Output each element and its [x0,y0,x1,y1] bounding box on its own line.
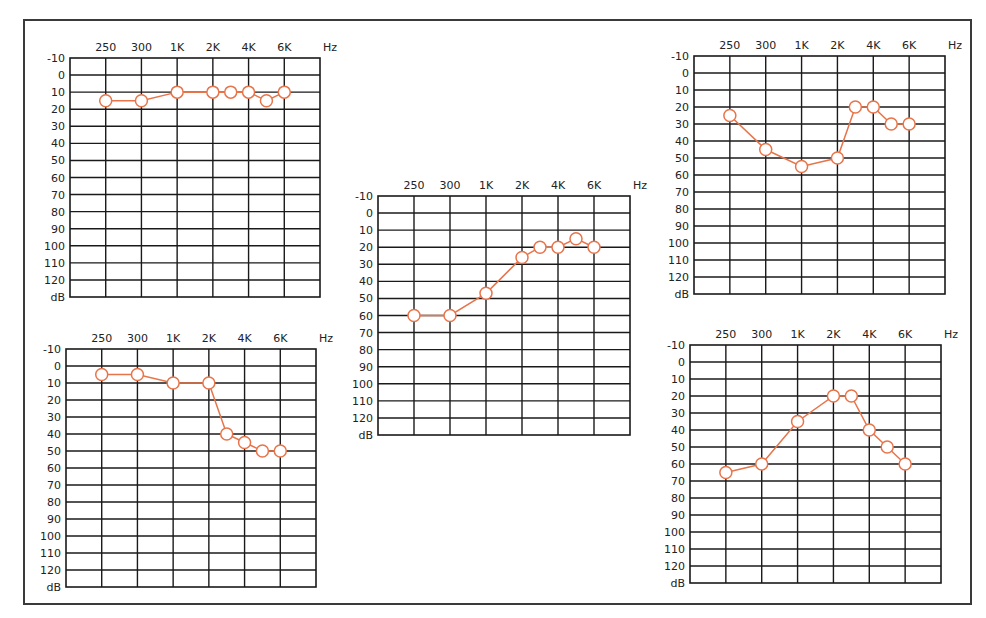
threshold-line [106,92,285,101]
x-axis-unit-label: Hz [323,41,337,54]
y-tick-label: 0 [682,67,689,80]
x-axis-unit-label: Hz [948,39,962,52]
y-tick-label: 20 [671,390,685,403]
threshold-marker-circle-icon [570,233,582,245]
audiogram-top-right: 2503001K2K4K6KHz-10010203040506070809010… [668,39,962,301]
y-tick-label: 120 [664,560,685,573]
y-tick-label: 0 [366,207,373,220]
threshold-marker-circle-icon [274,445,286,457]
threshold-marker-circle-icon [720,467,732,479]
y-tick-label: 30 [675,118,689,131]
y-tick-label: 50 [671,441,685,454]
threshold-marker-circle-icon [881,441,893,453]
threshold-marker-circle-icon [756,458,768,470]
x-tick-label: 1K [790,328,805,341]
audiogram-bottom-left: 2503001K2K4K6KHz-10010203040506070809010… [40,332,333,594]
y-tick-label: 90 [47,513,61,526]
y-tick-label: 40 [359,275,373,288]
x-tick-label: 250 [91,332,112,345]
y-tick-label: 80 [675,203,689,216]
y-tick-label: 110 [664,543,685,556]
y-tick-label: 30 [671,407,685,420]
y-tick-label: 70 [359,327,373,340]
x-tick-label: 4K [551,179,566,192]
x-tick-label: 2K [202,332,217,345]
y-axis-unit-label: dB [674,288,689,301]
x-axis-unit-label: Hz [944,328,958,341]
threshold-marker-circle-icon [845,390,857,402]
threshold-marker-circle-icon [516,251,528,263]
threshold-line [102,375,281,452]
threshold-marker-circle-icon [167,377,179,389]
y-tick-label: 100 [40,530,61,543]
y-tick-label: -10 [667,339,685,352]
x-tick-label: 300 [131,41,152,54]
x-tick-label: 6K [273,332,288,345]
x-tick-label: 6K [277,41,292,54]
y-tick-label: -10 [47,52,65,65]
y-tick-label: 0 [58,69,65,82]
y-tick-label: 100 [664,526,685,539]
y-tick-label: 80 [47,496,61,509]
y-tick-label: 120 [40,564,61,577]
threshold-marker-circle-icon [552,241,564,253]
x-tick-label: 4K [241,41,256,54]
audiogram-canvas: 2503001K2K4K6KHz-10010203040506070809010… [0,0,986,618]
threshold-marker-circle-icon [899,458,911,470]
y-tick-label: 50 [51,154,65,167]
threshold-marker-circle-icon [792,416,804,428]
x-tick-label: 250 [95,41,116,54]
y-tick-label: 90 [671,509,685,522]
y-axis-unit-label: dB [46,581,61,594]
y-tick-label: 120 [44,274,65,287]
y-tick-label: 0 [54,360,61,373]
audiogram-middle: 2503001K2K4K6KHz-10010203040506070809010… [352,179,647,442]
audiogram-bottom-right: 2503001K2K4K6KHz-10010203040506070809010… [664,328,958,590]
y-tick-label: 80 [671,492,685,505]
threshold-marker-circle-icon [256,445,268,457]
threshold-marker-circle-icon [444,310,456,322]
threshold-marker-circle-icon [100,95,112,107]
x-tick-label: 300 [755,39,776,52]
y-tick-label: 120 [352,412,373,425]
y-tick-label: 50 [47,445,61,458]
threshold-marker-circle-icon [903,118,915,130]
x-tick-label: 4K [866,39,881,52]
x-axis-unit-label: Hz [633,179,647,192]
x-tick-label: 2K [830,39,845,52]
y-tick-label: 20 [359,241,373,254]
threshold-marker-circle-icon [849,101,861,113]
y-tick-label: 20 [675,101,689,114]
y-tick-label: 60 [671,458,685,471]
y-tick-label: 10 [47,377,61,390]
threshold-marker-circle-icon [480,287,492,299]
x-tick-label: 250 [719,39,740,52]
x-tick-label: 1K [794,39,809,52]
threshold-line [414,239,594,316]
x-tick-label: 300 [440,179,461,192]
y-tick-label: 110 [352,395,373,408]
y-tick-label: 10 [51,86,65,99]
y-axis-unit-label: dB [358,429,373,442]
threshold-marker-circle-icon [243,86,255,98]
y-tick-label: 70 [47,479,61,492]
y-tick-label: 70 [671,475,685,488]
threshold-marker-circle-icon [278,86,290,98]
threshold-marker-circle-icon [221,428,233,440]
threshold-marker-circle-icon [588,241,600,253]
y-tick-label: 60 [675,169,689,182]
threshold-marker-circle-icon [408,310,420,322]
threshold-marker-circle-icon [796,161,808,173]
threshold-marker-circle-icon [867,101,879,113]
x-tick-label: 1K [170,41,185,54]
threshold-marker-circle-icon [863,424,875,436]
threshold-line [726,396,905,473]
y-tick-label: 70 [675,186,689,199]
threshold-marker-circle-icon [96,369,108,381]
y-tick-label: 110 [40,547,61,560]
x-tick-label: 1K [166,332,181,345]
y-tick-label: 30 [47,411,61,424]
y-tick-label: 0 [678,356,685,369]
y-tick-label: 60 [359,310,373,323]
threshold-marker-circle-icon [203,377,215,389]
